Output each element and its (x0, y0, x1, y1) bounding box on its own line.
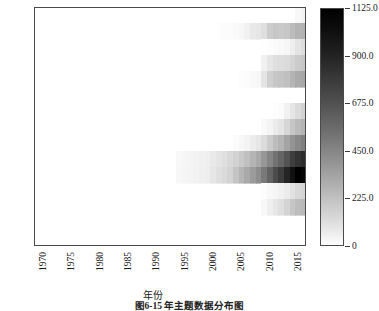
x-axis-tick-label: 2005 (236, 252, 246, 271)
y-axis-tick (34, 40, 35, 41)
y-axis-tick (34, 183, 35, 184)
x-axis-tick (290, 245, 291, 246)
figure-container: 主题频次 19701975198019851990199520002005201… (0, 0, 379, 311)
x-axis-tick (120, 245, 121, 246)
x-axis-tick (233, 245, 234, 246)
x-axis-tick-label: 1985 (123, 252, 133, 271)
colorbar-tick (345, 151, 350, 152)
y-axis-tick (34, 104, 35, 105)
x-axis-tick-label: 1975 (66, 252, 76, 271)
y-axis-tick (34, 24, 35, 25)
y-axis-tick (34, 120, 35, 121)
colorbar-tick (345, 198, 350, 199)
x-axis-tick (63, 245, 64, 246)
x-axis-tick-label: 2015 (293, 252, 303, 271)
colorbar-tick (345, 103, 350, 104)
x-axis-tick (177, 245, 178, 246)
colorbar-tick (345, 56, 350, 57)
heatmap-canvas (35, 8, 306, 246)
y-axis-tick (34, 56, 35, 57)
x-axis-tick-label: 1990 (151, 252, 161, 271)
x-axis-tick-label: 1970 (38, 252, 48, 271)
x-axis-tick (92, 245, 93, 246)
y-axis-tick (34, 8, 35, 9)
y-axis-tick (34, 72, 35, 73)
colorbar-tick (345, 246, 350, 247)
colorbar-tick (345, 8, 350, 9)
x-axis-tick (205, 245, 206, 246)
y-axis-tick (34, 215, 35, 216)
y-axis-tick (34, 199, 35, 200)
y-axis-tick (34, 167, 35, 168)
x-axis-tick-label: 2010 (265, 252, 275, 271)
colorbar-tick-label: 900.0 (352, 51, 373, 61)
colorbar-tick-label: 450.0 (352, 146, 373, 156)
x-axis-tick-label: 2000 (208, 252, 218, 271)
colorbar-tick-label: 675.0 (352, 98, 373, 108)
colorbar (320, 8, 344, 246)
colorbar-gradient (321, 9, 343, 245)
x-axis-tick (35, 245, 36, 246)
heatmap-plot-area (34, 7, 306, 246)
y-axis-tick (34, 231, 35, 232)
figure-caption: 图6-15 年主题数据分布图 (0, 300, 379, 311)
colorbar-tick-label: 225.0 (352, 193, 373, 203)
colorbar-tick-label: 0 (352, 241, 357, 251)
x-axis-tick (262, 245, 263, 246)
x-axis-tick-label: 1995 (180, 252, 190, 271)
x-axis-tick-label: 1980 (95, 252, 105, 271)
y-axis-tick (34, 88, 35, 89)
y-axis-tick (34, 135, 35, 136)
y-axis-tick (34, 151, 35, 152)
colorbar-tick-label: 1125.0 (352, 3, 378, 13)
x-axis-tick (148, 245, 149, 246)
